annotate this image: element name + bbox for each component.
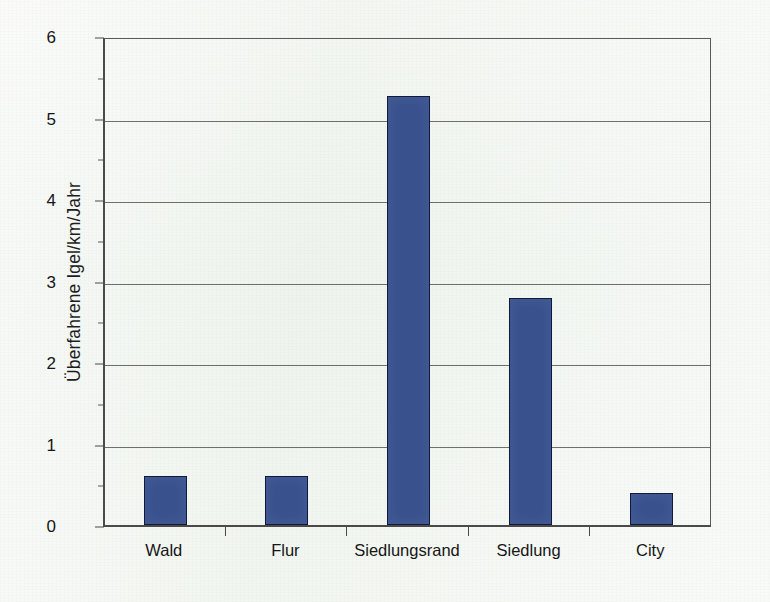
y-tick-label-4: 4 xyxy=(16,191,56,211)
y-axis-title: Überfahrene Igel/km/Jahr xyxy=(56,37,92,527)
plot-area xyxy=(103,38,711,527)
y-tick-label-5: 5 xyxy=(16,110,56,130)
bar-siedlung[interactable] xyxy=(509,298,552,525)
x-category-label-flur: Flur xyxy=(271,541,299,560)
y-tick-label-3: 3 xyxy=(16,273,56,293)
x-category-label-city: City xyxy=(636,541,664,560)
y-tick-label-1: 1 xyxy=(16,436,56,456)
bar-city[interactable] xyxy=(630,493,673,525)
x-tick-mark-3 xyxy=(468,527,469,536)
x-category-label-wald: Wald xyxy=(145,541,182,560)
y-tick-label-2: 2 xyxy=(16,354,56,374)
x-tick-mark-4 xyxy=(589,527,590,536)
bar-siedlungsrand[interactable] xyxy=(387,96,430,525)
bar-chart: Überfahrene Igel/km/Jahr 0 1 2 3 4 5 6 W… xyxy=(0,0,770,602)
x-category-label-siedlungsrand: Siedlungsrand xyxy=(354,541,460,560)
x-tick-mark-1 xyxy=(225,527,226,536)
bar-flur[interactable] xyxy=(265,476,308,525)
x-category-label-siedlung: Siedlung xyxy=(496,541,560,560)
y-tick-label-0: 0 xyxy=(16,517,56,537)
x-tick-mark-2 xyxy=(346,527,347,536)
y-tick-label-6: 6 xyxy=(16,28,56,48)
bar-wald[interactable] xyxy=(144,476,187,525)
